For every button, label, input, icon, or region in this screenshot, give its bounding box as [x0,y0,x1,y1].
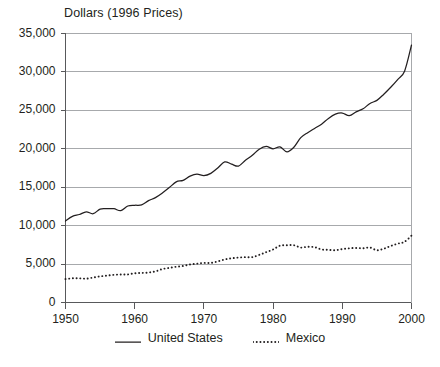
y-tick-label: 30,000 [0,64,56,78]
y-tick-label: 15,000 [0,179,56,193]
x-tick-label: 2000 [382,312,440,326]
legend-label: Mexico [286,331,326,345]
legend-swatch-dotted-line-icon [253,333,279,343]
y-tick-label: 35,000 [0,26,56,40]
x-tick-label: 1980 [243,312,303,326]
y-tick-label: 20,000 [0,141,56,155]
y-tick-label: 5,000 [0,256,56,270]
y-tick-label: 10,000 [0,218,56,232]
x-tick-label: 1960 [105,312,165,326]
x-tick-label: 1970 [174,312,234,326]
y-tick-label: 0 [0,295,56,309]
chart-legend: United StatesMexico [0,331,440,345]
legend-label: United States [148,331,223,345]
series-line-mexico [66,236,412,279]
legend-swatch-solid-line-icon [115,333,141,343]
chart-container: Dollars (1996 Prices) 05,00010,00015,000… [0,0,440,367]
legend-item-united-states[interactable]: United States [115,331,223,345]
legend-item-mexico[interactable]: Mexico [253,331,326,345]
y-tick-label: 25,000 [0,102,56,116]
x-tick-label: 1950 [36,312,96,326]
x-tick-label: 1990 [312,312,372,326]
